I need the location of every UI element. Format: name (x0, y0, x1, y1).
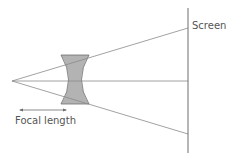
top-ray (12, 28, 188, 81)
lens-diagram: Screen Focal length (0, 0, 237, 161)
focal-length-label: Focal length (15, 115, 76, 126)
bottom-ray (12, 81, 188, 134)
arrowhead-right-icon (63, 109, 67, 112)
screen-label: Screen (192, 20, 226, 31)
focal-length-arrow (19, 109, 67, 112)
arrowhead-left-icon (19, 109, 23, 112)
